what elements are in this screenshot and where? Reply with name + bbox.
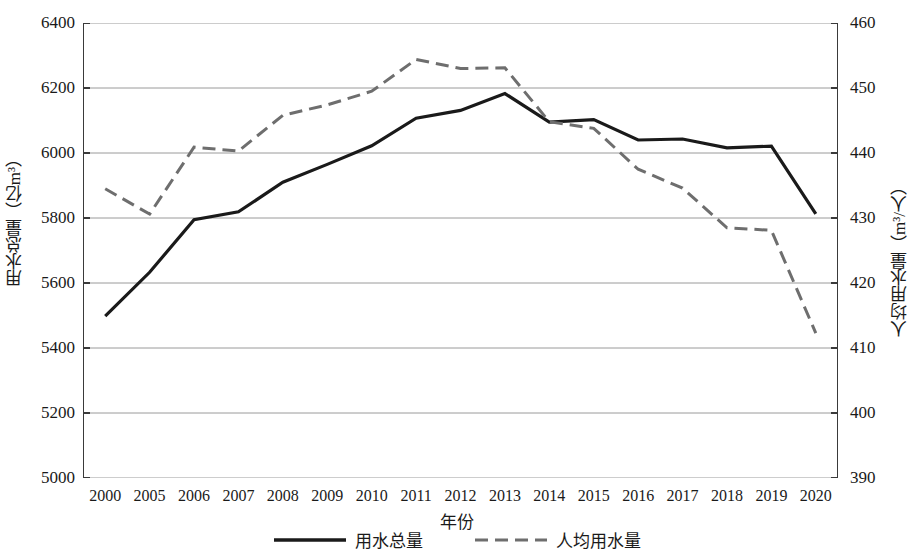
right-tick-label: 400	[850, 404, 876, 421]
left-tick-label: 5200	[0, 404, 75, 421]
chart-legend: 用水总量人均用水量	[0, 527, 914, 552]
right-axis-title: 人均用水量（m³/人）	[887, 178, 912, 337]
plot-area	[83, 23, 838, 478]
x-tick-label: 2020	[786, 488, 846, 504]
right-tick-label: 440	[850, 144, 876, 161]
legend-entry[interactable]: 人均用水量	[475, 527, 641, 552]
left-tick-label: 5600	[0, 274, 75, 291]
left-tick-label: 6400	[0, 14, 75, 31]
legend-label: 人均用水量	[556, 527, 641, 552]
chart-figure: 用水总量（亿m³） 人均用水量（m³/人） 年份 500052005400560…	[0, 0, 914, 556]
right-tick-label: 390	[850, 469, 876, 486]
left-tick-label: 5000	[0, 469, 75, 486]
solid-line-swatch-icon	[274, 533, 346, 547]
right-tick-label: 420	[850, 274, 876, 291]
legend-entry[interactable]: 用水总量	[274, 527, 423, 552]
left-tick-label: 5400	[0, 339, 75, 356]
dashed-line-swatch-icon	[475, 533, 547, 547]
right-tick-label: 460	[850, 14, 876, 31]
left-tick-label: 6000	[0, 144, 75, 161]
series-line	[105, 59, 816, 333]
left-tick-label: 6200	[0, 79, 75, 96]
right-tick-label: 450	[850, 79, 876, 96]
plot-svg	[83, 23, 838, 478]
left-tick-label: 5800	[0, 209, 75, 226]
right-tick-label: 430	[850, 209, 876, 226]
legend-label: 用水总量	[355, 527, 423, 552]
right-tick-label: 410	[850, 339, 876, 356]
